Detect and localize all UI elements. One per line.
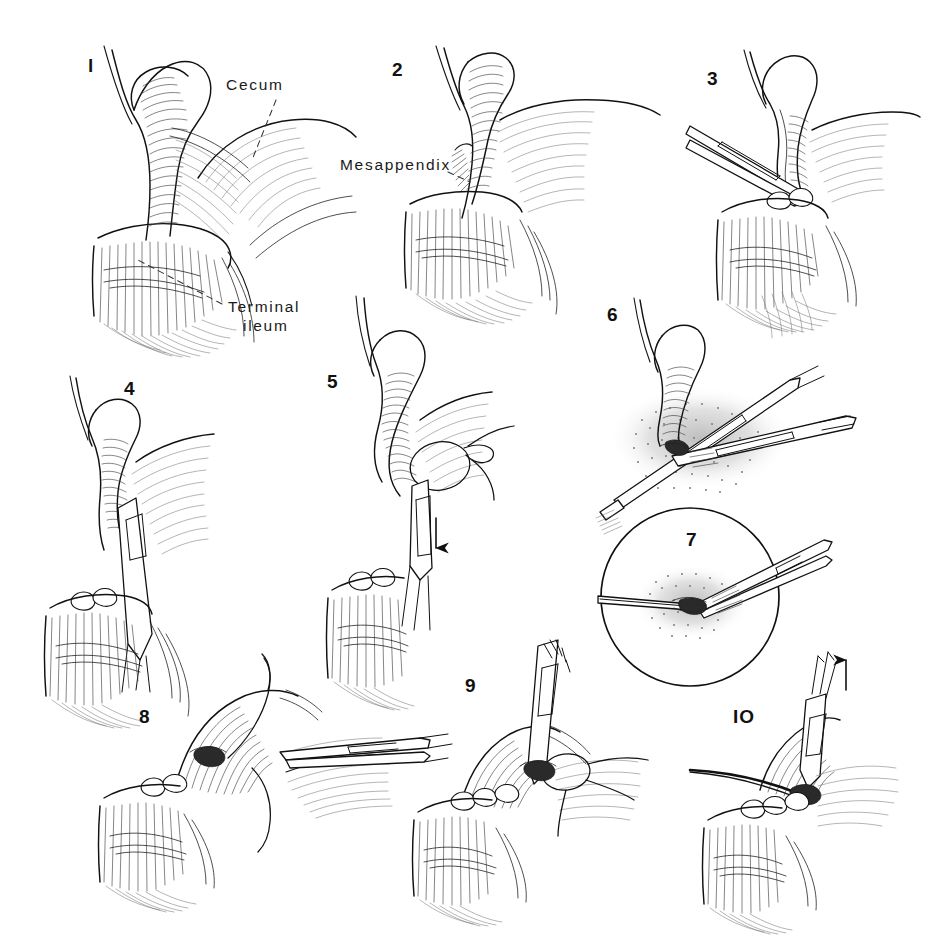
label-mesappendix: Mesappendix xyxy=(340,156,451,173)
illustration-plate: l xyxy=(0,0,925,942)
label-terminal-ileum-line2: ileum xyxy=(243,317,289,334)
label-cecum: Cecum xyxy=(226,76,284,93)
panel-2-number: 2 xyxy=(392,59,404,80)
label-terminal-ileum-line1: Terminal xyxy=(228,298,300,315)
panel-6-number: 6 xyxy=(607,304,619,325)
plate-canvas: l xyxy=(0,0,925,942)
panel-5-number: 5 xyxy=(327,371,339,392)
panel-9-number: 9 xyxy=(465,675,477,696)
panel-3-number: 3 xyxy=(707,68,719,89)
panel-7-number: 7 xyxy=(686,529,698,550)
panel-8-number: 8 xyxy=(139,706,151,727)
panel-1-number: l xyxy=(88,55,94,76)
panel-4-number: 4 xyxy=(124,378,136,399)
panel-10-number: IO xyxy=(733,706,755,727)
